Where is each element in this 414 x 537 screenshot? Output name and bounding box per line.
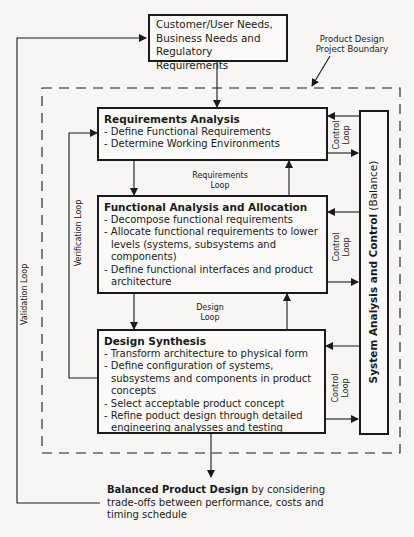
design-synthesis-box: Design Synthesis - Transform architectur… [97, 329, 326, 434]
requirements-loop-line2: Loop [180, 181, 260, 191]
output-line2: trade-offs between performance, costs an… [107, 497, 347, 510]
system-control-bold: System Analysis and Control [367, 214, 379, 383]
customer-needs-line: Business Needs and [156, 32, 280, 46]
functional-item: - Define functional interfaces and produ… [104, 264, 321, 289]
validation-loop-label: Validation Loop [20, 265, 30, 325]
control-loop-2-line2: Loop [342, 227, 352, 267]
requirements-analysis-box: Requirements Analysis - Define Functiona… [97, 107, 328, 161]
boundary-label-line2: Project Boundary [312, 44, 392, 54]
boundary-label: Product Design Project Boundary [312, 34, 392, 54]
functional-analysis-box: Functional Analysis and Allocation - Dec… [97, 195, 328, 294]
design-item: - Transform architecture to physical for… [104, 348, 319, 360]
system-analysis-control-label: System Analysis and Control (Balance) [367, 157, 383, 387]
functional-item: - Allocate functional requirements to lo… [104, 226, 321, 263]
control-loop-1-line2: Loop [342, 115, 352, 155]
verification-loop-label: Verification Loop [74, 198, 84, 268]
output-bold: Balanced Product Design [107, 484, 248, 495]
control-loop-3-line2: Loop [341, 368, 351, 408]
output-rest1: by considering [248, 484, 325, 495]
requirements-analysis-title: Requirements Analysis [104, 113, 321, 126]
requirements-item: - Determine Working Environments [104, 138, 321, 150]
control-loop-3-line1: Control [331, 368, 341, 408]
requirements-loop-label: Requirements Loop [180, 171, 260, 191]
design-item: - Select acceptable product concept [104, 398, 319, 410]
customer-needs-box: Customer/User Needs, Business Needs and … [148, 14, 288, 62]
customer-needs-line: Regulatory Requirements [156, 45, 280, 72]
output-line3: timing schedule [107, 509, 347, 522]
balanced-product-design: Balanced Product Design by considering t… [107, 484, 347, 522]
customer-needs-line: Customer/User Needs, [156, 18, 280, 32]
design-synthesis-title: Design Synthesis [104, 335, 319, 348]
design-item: - Refine poduct design through detailed … [104, 410, 319, 435]
control-loop-1-line1: Control [332, 115, 342, 155]
functional-item: - Decompose functional requirements [104, 214, 321, 226]
requirements-loop-line1: Requirements [180, 171, 260, 181]
control-loop-label-1: Control Loop [332, 115, 354, 155]
control-loop-2-line1: Control [332, 227, 342, 267]
design-loop-label: Design Loop [175, 303, 245, 323]
control-loop-label-2: Control Loop [332, 227, 354, 267]
verification-loop-text: Verification Loop [74, 200, 83, 267]
control-loop-label-3: Control Loop [331, 368, 353, 408]
design-item: - Define configuration of systems, subsy… [104, 360, 319, 397]
design-loop-line2: Loop [175, 313, 245, 323]
functional-analysis-title: Functional Analysis and Allocation [104, 201, 321, 214]
system-control-normal: (Balance) [367, 161, 379, 214]
design-loop-line1: Design [175, 303, 245, 313]
validation-loop-text: Validation Loop [20, 264, 29, 325]
boundary-label-line1: Product Design [312, 34, 392, 44]
requirements-item: - Define Functional Requirements [104, 126, 321, 138]
